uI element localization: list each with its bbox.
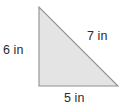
hypotenuse-length-label: 7 in xyxy=(87,30,108,43)
left-leg-length-label: 6 in xyxy=(3,44,24,57)
right-triangle-polygon xyxy=(39,7,118,86)
triangle-figure: 6 in 7 in 5 in xyxy=(0,0,131,108)
bottom-leg-length-label: 5 in xyxy=(64,92,85,105)
